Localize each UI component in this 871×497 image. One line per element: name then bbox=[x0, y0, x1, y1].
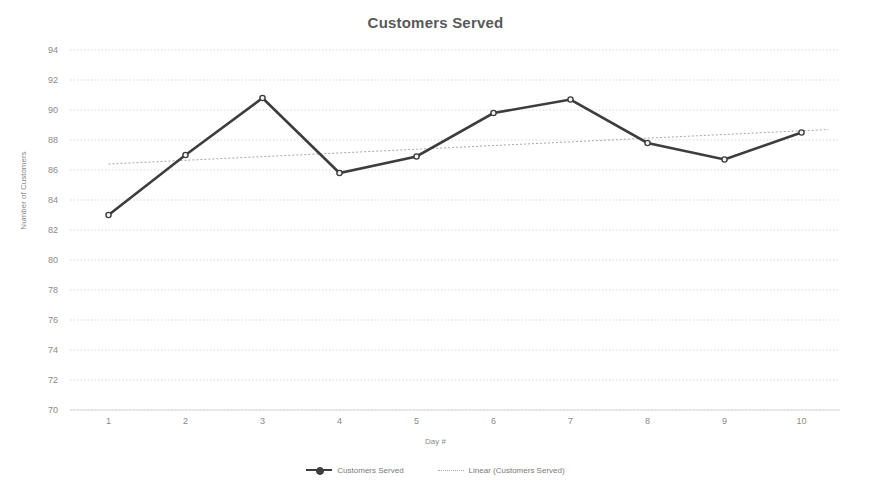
legend-trendline-swatch-icon bbox=[438, 466, 464, 475]
x-axis-tick-label: 4 bbox=[337, 416, 342, 426]
data-point-marker bbox=[799, 130, 804, 135]
data-series-layer bbox=[70, 50, 840, 410]
legend-item[interactable]: Customers Served bbox=[306, 466, 403, 475]
x-axis-tick-label: 5 bbox=[414, 416, 419, 426]
legend-item[interactable]: Linear (Customers Served) bbox=[438, 466, 565, 475]
legend-item-label: Customers Served bbox=[337, 466, 403, 475]
y-axis-tick-label: 92 bbox=[48, 75, 58, 85]
x-axis-tick-label: 2 bbox=[183, 416, 188, 426]
chart-legend: Customers ServedLinear (Customers Served… bbox=[0, 466, 871, 475]
y-axis-tick-label: 72 bbox=[48, 375, 58, 385]
y-axis-tick-label: 84 bbox=[48, 195, 58, 205]
y-axis-tick-label: 88 bbox=[48, 135, 58, 145]
x-axis-tick-labels: 12345678910 bbox=[70, 416, 840, 436]
y-axis-tick-label: 74 bbox=[48, 345, 58, 355]
x-axis-tick-label: 3 bbox=[260, 416, 265, 426]
legend-line-marker-swatch-icon bbox=[306, 466, 332, 475]
y-axis-tick-label: 86 bbox=[48, 165, 58, 175]
x-axis-title: Day # bbox=[0, 437, 871, 446]
y-axis-tick-label: 80 bbox=[48, 255, 58, 265]
legend-item-label: Linear (Customers Served) bbox=[469, 466, 565, 475]
data-point-marker bbox=[645, 140, 650, 145]
data-point-marker bbox=[260, 95, 265, 100]
chart-container: Customers Served Number of Customers 949… bbox=[0, 0, 871, 497]
data-point-marker bbox=[183, 152, 188, 157]
series-line-customers-served bbox=[109, 98, 802, 215]
x-axis-tick-label: 7 bbox=[568, 416, 573, 426]
plot-area bbox=[70, 50, 840, 410]
y-axis-tick-label: 82 bbox=[48, 225, 58, 235]
data-point-marker bbox=[491, 110, 496, 115]
y-axis-tick-label: 70 bbox=[48, 405, 58, 415]
y-axis-tick-label: 76 bbox=[48, 315, 58, 325]
x-axis-tick-label: 1 bbox=[106, 416, 111, 426]
data-point-marker bbox=[337, 170, 342, 175]
x-axis-tick-label: 8 bbox=[645, 416, 650, 426]
y-axis-tick-label: 90 bbox=[48, 105, 58, 115]
chart-title: Customers Served bbox=[0, 14, 871, 31]
data-point-marker bbox=[106, 212, 111, 217]
y-axis-tick-label: 94 bbox=[48, 45, 58, 55]
y-axis-tick-label: 78 bbox=[48, 285, 58, 295]
y-axis-tick-labels: 94929088868482807876747270 bbox=[0, 50, 66, 410]
x-axis-tick-label: 6 bbox=[491, 416, 496, 426]
data-point-marker bbox=[568, 97, 573, 102]
data-point-marker bbox=[414, 154, 419, 159]
x-axis-tick-label: 9 bbox=[722, 416, 727, 426]
data-point-marker bbox=[722, 157, 727, 162]
x-axis-tick-label: 10 bbox=[796, 416, 806, 426]
